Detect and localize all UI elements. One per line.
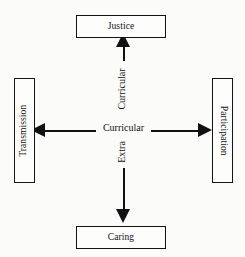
- vertical-axis-label-lower: Extra: [117, 136, 129, 168]
- diagram-canvas: Curricular Curricular Extra Justice Cari…: [0, 0, 245, 257]
- arrow-down-icon: [116, 209, 130, 223]
- horizontal-axis-label: Curricular: [96, 123, 151, 133]
- node-label-participation: Participation: [218, 106, 228, 156]
- node-box-transmission[interactable]: Transmission: [14, 78, 35, 183]
- node-box-caring[interactable]: Caring: [76, 226, 166, 249]
- node-label-transmission: Transmission: [20, 104, 30, 156]
- horizontal-axis-left-segment: [44, 130, 100, 132]
- node-box-participation[interactable]: Participation: [212, 78, 233, 183]
- node-label-justice: Justice: [108, 22, 135, 32]
- arrow-right-icon: [198, 123, 212, 137]
- horizontal-axis-right-segment: [147, 130, 199, 132]
- node-label-caring: Caring: [108, 233, 134, 243]
- vertical-axis-label-upper: Curricular: [117, 61, 129, 117]
- node-box-justice[interactable]: Justice: [76, 15, 166, 38]
